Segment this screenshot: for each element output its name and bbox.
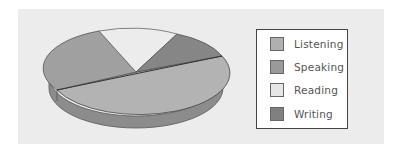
legend-label: Speaking (294, 61, 344, 73)
legend-item-speaking: Speaking (270, 59, 344, 75)
chart-legend: Listening Speaking Reading Writing (256, 29, 348, 129)
pie-chart (0, 0, 260, 155)
swatch-writing (270, 107, 284, 121)
legend-item-reading: Reading (270, 82, 338, 98)
swatch-speaking (270, 60, 284, 74)
legend-label: Listening (294, 38, 344, 50)
legend-item-listening: Listening (270, 36, 344, 52)
legend-item-writing: Writing (270, 106, 333, 122)
legend-label: Reading (294, 84, 338, 96)
swatch-listening (270, 37, 284, 51)
legend-label: Writing (294, 108, 333, 120)
swatch-reading (270, 83, 284, 97)
